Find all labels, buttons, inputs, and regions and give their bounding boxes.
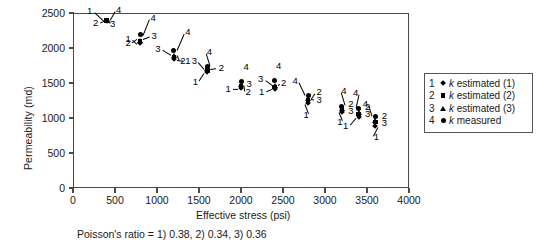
leader-line [177,60,183,62]
x-tick-mark [408,188,409,193]
data-point-circle [239,79,244,84]
x-tick-label: 500 [91,194,139,206]
y-tick-mark [69,117,74,118]
x-tick-mark [366,188,367,193]
x-tick-mark [324,188,325,193]
y-tick-mark [69,47,74,48]
leader-line [210,69,216,71]
point-label-4: 4 [185,27,190,37]
y-tick-label: 1500 [0,77,65,89]
point-label-4: 4 [276,61,281,71]
y-tick-mark [69,82,74,83]
x-tick-label: 2000 [217,194,265,206]
x-tick-mark [282,188,283,193]
y-tick-label: 0 [0,182,65,194]
x-tick-mark [240,188,241,193]
point-label-3: 3 [152,31,157,41]
y-tick-label: 2500 [0,7,65,19]
point-label-1: 1 [193,77,198,87]
data-point-circle [272,78,277,83]
point-label-2: 2 [93,18,98,28]
point-label-3: 3 [382,118,387,128]
point-label-2: 2 [281,78,286,88]
point-label-4: 4 [363,99,368,109]
y-tick-label: 1000 [0,112,65,124]
point-label-3: 3 [110,19,115,29]
x-tick-label: 0 [49,194,97,206]
point-label-1: 1 [225,84,230,94]
leader-line [311,99,315,101]
leader-line [349,118,355,125]
leader-line [143,19,150,35]
x-tick-label: 2500 [259,194,307,206]
leader-line [143,37,150,40]
data-point-circle [306,93,311,98]
point-label-4: 4 [151,13,156,23]
data-point-triangle [272,83,278,88]
y-tick-mark [69,12,74,13]
plot-overlay: 2500200015001000500005001000150020002500… [0,0,539,248]
point-label-3: 3 [155,44,160,54]
leader-line [277,84,279,86]
leader-line [162,49,171,55]
x-tick-label: 4000 [385,194,433,206]
y-tick-mark [69,152,74,153]
x-tick-label: 3000 [301,194,349,206]
point-label-3: 3 [258,74,263,84]
point-label-4: 4 [116,5,121,15]
leader-line [233,89,238,90]
point-label-3: 3 [192,56,197,66]
point-label-3: 3 [246,79,251,89]
x-tick-label: 1500 [175,194,223,206]
point-label-4: 4 [293,76,298,86]
point-label-3: 3 [348,106,353,116]
x-tick-mark [114,188,115,193]
point-label-1: 1 [343,121,348,131]
leader-line [266,89,272,92]
point-label-2: 2 [126,38,131,48]
x-tick-mark [198,188,199,193]
point-label-4: 4 [243,62,248,72]
leader-line [109,21,110,23]
point-label-4: 4 [207,47,212,57]
chart-figure: Permeability (md) Effective stress (psi)… [0,0,539,248]
x-tick-label: 1000 [133,194,181,206]
data-point-circle [373,114,378,119]
x-tick-mark [156,188,157,193]
y-tick-label: 500 [0,147,65,159]
y-tick-label: 2000 [0,42,65,54]
point-label-3: 3 [317,95,322,105]
leader-line [199,73,205,81]
x-tick-label: 3500 [343,194,391,206]
leader-line [176,33,184,50]
point-label-2: 2 [219,63,224,73]
x-tick-mark [72,188,73,193]
point-label-1: 1 [259,87,264,97]
point-label-1: 1 [87,6,92,16]
point-label-1: 1 [185,56,190,66]
leader-line [299,82,306,95]
